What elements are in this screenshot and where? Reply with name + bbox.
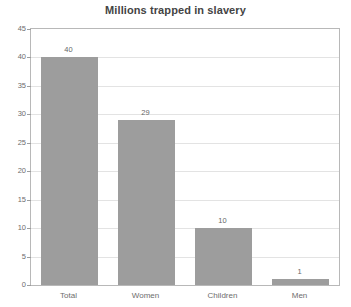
y-axis-tick-label: 10 bbox=[2, 223, 26, 232]
y-axis-tick-label: 45 bbox=[2, 24, 26, 33]
bar[interactable] bbox=[272, 279, 329, 285]
y-axis-tick bbox=[27, 114, 31, 115]
bar-value-label: 40 bbox=[40, 45, 97, 54]
y-axis-tick bbox=[27, 57, 31, 58]
y-axis-tick bbox=[27, 86, 31, 87]
y-axis-tick bbox=[27, 228, 31, 229]
y-axis-tick-label: 15 bbox=[2, 194, 26, 203]
x-axis-tick-label: Children bbox=[184, 291, 261, 300]
y-axis-tick bbox=[27, 171, 31, 172]
y-axis-tick bbox=[27, 257, 31, 258]
y-axis-tick-label: 5 bbox=[2, 251, 26, 260]
y-axis-tick bbox=[27, 29, 31, 30]
plot-area bbox=[30, 28, 340, 286]
bar-value-label: 10 bbox=[194, 216, 251, 225]
y-axis-tick-label: 40 bbox=[2, 52, 26, 61]
y-axis-tick bbox=[27, 200, 31, 201]
chart-title: Millions trapped in slavery bbox=[0, 4, 351, 16]
bar-chart: Millions trapped in slavery 051015202530… bbox=[0, 0, 351, 307]
y-axis-tick bbox=[27, 143, 31, 144]
bar[interactable] bbox=[118, 120, 175, 285]
x-axis-tick-label: Women bbox=[107, 291, 184, 300]
y-axis-tick bbox=[27, 285, 31, 286]
x-axis-tick-label: Total bbox=[30, 291, 107, 300]
bar-value-label: 1 bbox=[271, 267, 328, 276]
bar-value-label: 29 bbox=[117, 108, 174, 117]
bar[interactable] bbox=[195, 228, 252, 285]
y-axis-tick-label: 30 bbox=[2, 109, 26, 118]
x-axis-tick-label: Men bbox=[261, 291, 338, 300]
y-axis-tick-label: 25 bbox=[2, 137, 26, 146]
y-axis-tick-label: 0 bbox=[2, 280, 26, 289]
y-axis-tick-label: 20 bbox=[2, 166, 26, 175]
y-axis-tick-label: 35 bbox=[2, 80, 26, 89]
bar[interactable] bbox=[41, 57, 98, 285]
